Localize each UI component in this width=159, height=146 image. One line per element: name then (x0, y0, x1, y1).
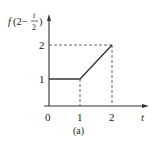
xtick-label-1: 1 (77, 111, 83, 123)
y-axis-label: f (2− t 2 ) (8, 11, 43, 32)
data-line (49, 45, 112, 79)
ylabel-denominator: 2 (32, 23, 36, 32)
ylabel-close: ) (39, 16, 43, 28)
ylabel-open: (2− (13, 16, 28, 28)
ytick-label-1: 1 (39, 73, 45, 85)
ytick-label-2: 2 (39, 39, 45, 51)
xtick-label-2: 2 (109, 111, 115, 123)
y-axis-arrow-icon (47, 14, 51, 21)
x-axis-arrow-icon (142, 104, 149, 108)
ylabel-numerator: t (33, 11, 36, 20)
figure-caption: (a) (73, 125, 84, 137)
chart-figure: f (2− t 2 ) 1 2 0 1 2 t (a) (0, 0, 159, 146)
x-axis-label: t (141, 111, 145, 123)
origin-label: 0 (45, 111, 51, 123)
